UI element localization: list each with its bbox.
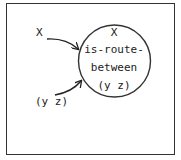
arrow-x-to-node <box>47 39 78 49</box>
input-x-label: X <box>36 27 43 39</box>
node-line-1: X <box>79 27 149 39</box>
arrow-yz-to-node <box>55 81 81 95</box>
node-line-3: between <box>79 62 149 74</box>
input-yz-label: (y z) <box>35 96 68 108</box>
node-line-4: (y z) <box>79 80 149 92</box>
node-line-2: is-route- <box>79 44 149 56</box>
